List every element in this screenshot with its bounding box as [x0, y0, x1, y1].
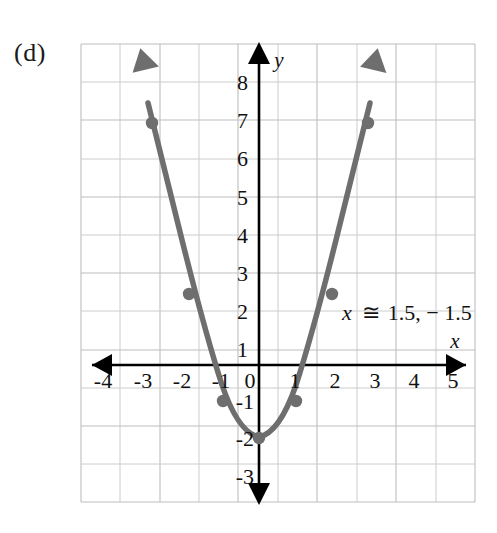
- data-point: [217, 395, 229, 407]
- annotation-variable: x: [341, 300, 352, 325]
- y-axis-up-arrow: [248, 42, 270, 64]
- y-tick-label: 3: [237, 261, 248, 286]
- y-tick-label: -3: [236, 464, 254, 489]
- y-tick-label: 4: [237, 223, 248, 248]
- x-tick-label: -4: [94, 368, 112, 393]
- data-point: [290, 395, 302, 407]
- data-point: [146, 117, 158, 129]
- figure-canvas: (d): [0, 0, 497, 533]
- x-tick-label: 4: [409, 368, 420, 393]
- annotation-relation: ≅: [362, 300, 380, 325]
- curve-right-arrow: [360, 45, 391, 73]
- y-tick-label: -1: [236, 389, 254, 414]
- x-tick-label: 1: [290, 368, 301, 393]
- data-point: [326, 288, 338, 300]
- x-tick-label: -1: [212, 368, 230, 393]
- y-tick-labels: 8 7 6 5 4 3 2 1 -1 -2 -3: [236, 70, 254, 489]
- y-tick-label: 2: [237, 299, 248, 324]
- data-point: [253, 432, 265, 444]
- y-tick-label: 1: [237, 337, 248, 362]
- y-tick-label: 8: [237, 70, 248, 95]
- x-tick-label: 3: [370, 368, 381, 393]
- y-tick-label: 6: [237, 146, 248, 171]
- x-tick-labels: -4 -3 -2 -1 0 1 2 3 4 5: [94, 368, 459, 393]
- grid-lines: [81, 44, 475, 502]
- y-tick-label: 7: [237, 108, 248, 133]
- y-tick-label: -2: [236, 426, 254, 451]
- x-tick-label: 5: [448, 368, 459, 393]
- graph-svg: -4 -3 -2 -1 0 1 2 3 4 5 8 7 6 5 4 3 2 1 …: [0, 0, 497, 533]
- x-axis-label: x: [449, 329, 460, 353]
- x-tick-label: -3: [134, 368, 152, 393]
- y-axis-label: y: [272, 48, 284, 72]
- solution-annotation: x ≅ 1.5, − 1.5: [341, 300, 472, 325]
- curve-left-arrow: [128, 45, 159, 73]
- data-point: [183, 288, 195, 300]
- x-tick-label: 2: [330, 368, 341, 393]
- data-point: [362, 117, 374, 129]
- y-tick-label: 5: [237, 185, 248, 210]
- x-tick-label: -2: [173, 368, 191, 393]
- annotation-values: 1.5, − 1.5: [388, 300, 472, 325]
